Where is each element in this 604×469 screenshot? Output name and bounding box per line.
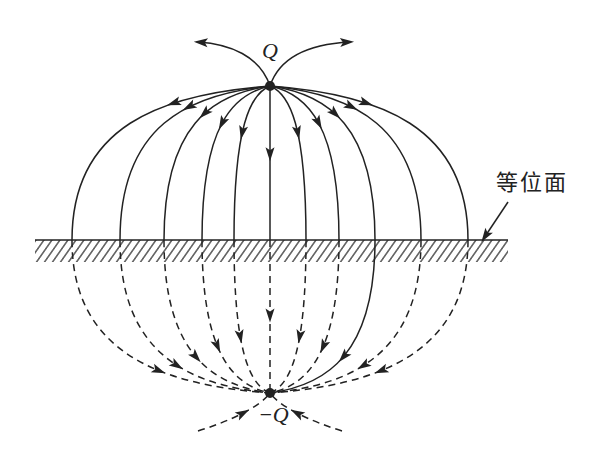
equipotential-pointer-arrow [478, 202, 508, 244]
equipotential-label: 等位面 [496, 164, 568, 196]
field-lines-diagram: Q −Q 等位面 [0, 0, 604, 469]
field-lines [72, 37, 468, 431]
diagram-canvas [0, 0, 604, 469]
charge-label-q: Q [262, 38, 278, 64]
conductor-hatching [35, 240, 508, 262]
image-charge-label: −Q [258, 402, 289, 428]
